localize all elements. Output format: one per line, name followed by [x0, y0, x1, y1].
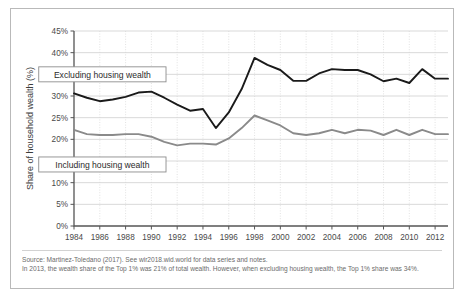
- axis-lines: [74, 31, 448, 226]
- vertical-gridlines: [100, 31, 435, 226]
- y-axis-tick-label: 5%: [56, 200, 68, 209]
- x-axis-tick-label: 2002: [297, 233, 316, 242]
- y-axis-tick-labels: 0%5%10%15%20%25%30%35%40%45%: [52, 27, 68, 231]
- x-axis-tick-label: 1996: [220, 233, 239, 242]
- footnote-source: Source: Martinez-Toledano (2017). See wi…: [22, 255, 442, 264]
- footnote-block: Source: Martinez-Toledano (2017). See wi…: [22, 250, 442, 274]
- y-axis-tick-label: 30%: [52, 92, 68, 101]
- x-axis-tick-label: 1984: [65, 233, 84, 242]
- x-axis-tick-label: 2008: [374, 233, 393, 242]
- x-axis-tick-label: 2012: [426, 233, 445, 242]
- y-axis-tick-label: 45%: [52, 27, 68, 36]
- x-axis-tick-label: 2000: [271, 233, 290, 242]
- x-axis-tick-labels: 1984198619881990199219941996199820002002…: [65, 233, 445, 242]
- x-axis-tick-label: 1994: [194, 233, 213, 242]
- x-axis-tick-label: 1986: [91, 233, 110, 242]
- y-axis-tick-label: 25%: [52, 114, 68, 123]
- annotation-1: Including housing wealth: [39, 157, 166, 172]
- x-axis-tick-label: 2006: [349, 233, 368, 242]
- annotation-text-1: Including housing wealth: [55, 160, 149, 170]
- y-axis-tick-label: 20%: [52, 135, 68, 144]
- annotation-text-0: Excluding housing wealth: [54, 70, 151, 80]
- y-axis-tick-label: 10%: [52, 179, 68, 188]
- chart-plot-area: 0%5%10%15%20%25%30%35%40%45% 19841986198…: [11, 9, 455, 247]
- y-axis-tick-label: 40%: [52, 49, 68, 58]
- x-axis-tick-label: 1988: [116, 233, 135, 242]
- line-chart: 0%5%10%15%20%25%30%35%40%45% 19841986198…: [11, 9, 455, 247]
- x-axis-tick-label: 1998: [245, 233, 264, 242]
- figure-container: 0%5%10%15%20%25%30%35%40%45% 19841986198…: [10, 8, 454, 289]
- annotation-0: Excluding housing wealth: [39, 67, 166, 82]
- y-axis-title-text: Share of household wealth (%): [25, 67, 35, 190]
- series-line-1: [74, 116, 448, 146]
- footnote-note: In 2013, the wealth share of the Top 1% …: [22, 264, 442, 273]
- x-axis-tick-label: 1992: [168, 233, 187, 242]
- x-axis-tick-label: 2010: [400, 233, 419, 242]
- chart-axes: [74, 31, 448, 226]
- x-axis-tick-label: 1990: [142, 233, 161, 242]
- y-axis-tick-label: 0%: [56, 222, 68, 231]
- y-axis-title: Share of household wealth (%): [25, 67, 35, 190]
- x-axis-tick-label: 2004: [323, 233, 342, 242]
